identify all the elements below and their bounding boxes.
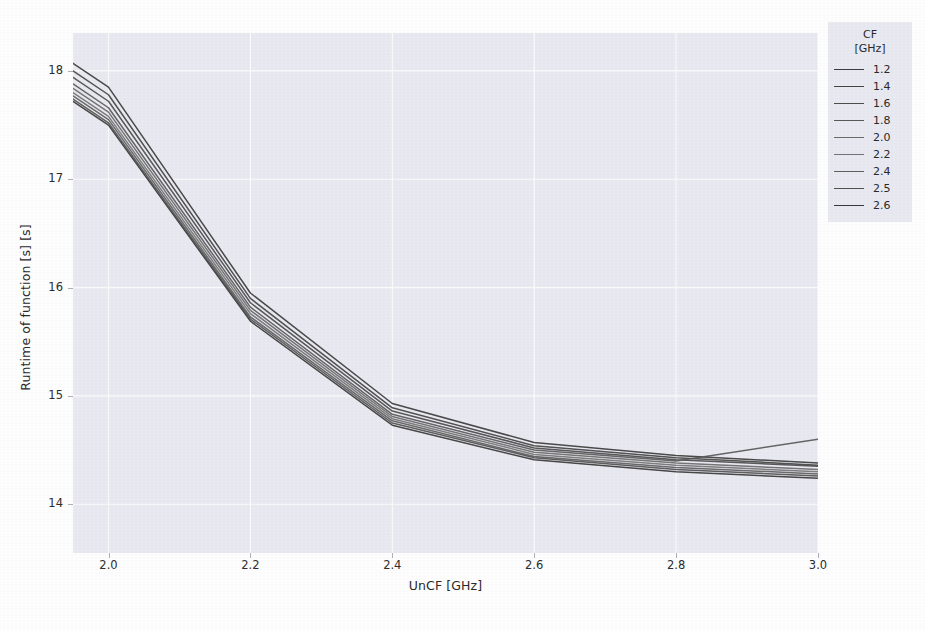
legend-item-label: 1.8 bbox=[864, 114, 891, 127]
x-tick-label: 2.4 bbox=[362, 558, 422, 572]
y-tick-label: 15 bbox=[3, 388, 63, 402]
x-tick-mark bbox=[534, 553, 535, 558]
legend-item-label: 2.0 bbox=[864, 131, 891, 144]
data-series-lines bbox=[73, 33, 818, 553]
legend-line-swatch-icon bbox=[834, 166, 864, 177]
x-tick-label: 3.0 bbox=[788, 558, 848, 572]
x-tick-mark bbox=[109, 553, 110, 558]
x-tick-label: 2.0 bbox=[79, 558, 139, 572]
x-axis-label: UnCF [GHz] bbox=[73, 578, 818, 593]
legend-item-1-8[interactable]: 1.8 bbox=[832, 112, 908, 129]
legend-title-line-1: CF bbox=[832, 28, 908, 42]
legend-item-2-5[interactable]: 2.5 bbox=[832, 180, 908, 197]
y-tick-label: 14 bbox=[3, 496, 63, 510]
legend-item-label: 2.4 bbox=[864, 165, 891, 178]
legend-item-label: 2.2 bbox=[864, 148, 891, 161]
legend-item-label: 1.2 bbox=[864, 63, 891, 76]
legend-item-1-4[interactable]: 1.4 bbox=[832, 78, 908, 95]
x-tick-mark bbox=[676, 553, 677, 558]
series-line-1-8 bbox=[73, 84, 818, 461]
legend-item-label: 1.6 bbox=[864, 97, 891, 110]
legend-title-line-2: [GHz] bbox=[832, 42, 908, 56]
legend-line-swatch-icon bbox=[834, 81, 864, 92]
plot-area bbox=[73, 33, 818, 553]
y-tick-label: 18 bbox=[3, 63, 63, 77]
legend-item-2-0[interactable]: 2.0 bbox=[832, 129, 908, 146]
legend-items: 1.21.41.61.82.02.22.42.52.6 bbox=[832, 61, 908, 214]
legend-line-swatch-icon bbox=[834, 98, 864, 109]
legend-line-swatch-icon bbox=[834, 183, 864, 194]
y-axis-label: Runtime of function [s] [s] bbox=[18, 108, 33, 508]
legend-item-2-2[interactable]: 2.2 bbox=[832, 146, 908, 163]
x-tick-label: 2.8 bbox=[646, 558, 706, 572]
chart-figure: Runtime of function [s] [s] 1415161718 2… bbox=[0, 0, 925, 630]
legend-item-2-6[interactable]: 2.6 bbox=[832, 197, 908, 214]
series-line-2-4 bbox=[73, 96, 818, 474]
x-tick-label: 2.6 bbox=[504, 558, 564, 572]
series-line-2-2 bbox=[73, 93, 818, 472]
legend-item-1-6[interactable]: 1.6 bbox=[832, 95, 908, 112]
series-line-2-5 bbox=[73, 99, 818, 476]
x-tick-label: 2.2 bbox=[220, 558, 280, 572]
legend-line-swatch-icon bbox=[834, 200, 864, 211]
legend-line-swatch-icon bbox=[834, 115, 864, 126]
legend-item-label: 2.6 bbox=[864, 199, 891, 212]
series-line-1-6 bbox=[73, 77, 818, 466]
y-tick-label: 17 bbox=[3, 171, 63, 185]
x-tick-mark bbox=[392, 553, 393, 558]
legend-line-swatch-icon bbox=[834, 64, 864, 75]
legend-line-swatch-icon bbox=[834, 149, 864, 160]
series-line-1-4 bbox=[73, 71, 818, 465]
x-tick-mark bbox=[818, 553, 819, 558]
x-tick-mark bbox=[250, 553, 251, 558]
legend-title: CF [GHz] bbox=[832, 28, 908, 56]
legend-item-label: 2.5 bbox=[864, 182, 891, 195]
series-line-1-2 bbox=[73, 63, 818, 463]
legend-item-label: 1.4 bbox=[864, 80, 891, 93]
legend-item-1-2[interactable]: 1.2 bbox=[832, 61, 908, 78]
legend: CF [GHz] 1.21.41.61.82.02.22.42.52.6 bbox=[828, 22, 912, 222]
y-tick-label: 16 bbox=[3, 280, 63, 294]
legend-item-2-4[interactable]: 2.4 bbox=[832, 163, 908, 180]
legend-line-swatch-icon bbox=[834, 132, 864, 143]
series-line-2-0 bbox=[73, 88, 818, 469]
